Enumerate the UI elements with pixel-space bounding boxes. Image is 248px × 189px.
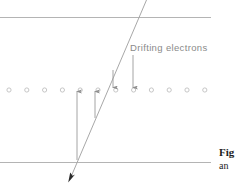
detector-cell-diagram (0, 0, 248, 189)
figure-caption-title: Fig (219, 146, 248, 159)
sense-wire (203, 88, 207, 92)
figure-caption-text: an (219, 159, 248, 172)
sense-wire (185, 88, 189, 92)
sense-wire (114, 88, 118, 92)
sense-wire (167, 88, 171, 92)
sense-wire-row (7, 88, 207, 92)
drifting-electrons-label: Drifting electrons (130, 42, 208, 53)
sense-wire (7, 88, 11, 92)
particle-track-arrowhead (68, 172, 75, 182)
sense-wire (43, 88, 47, 92)
figure-caption: Fig an (219, 146, 248, 172)
sense-wire (132, 88, 136, 92)
sense-wire (78, 88, 82, 92)
sense-wire (60, 88, 64, 92)
sense-wire (149, 88, 153, 92)
sense-wire (96, 88, 100, 92)
sense-wire (25, 88, 29, 92)
